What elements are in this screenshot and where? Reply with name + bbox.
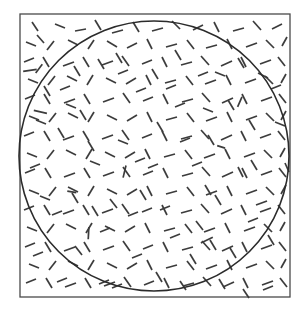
line-segment	[88, 227, 89, 239]
figure-root	[0, 0, 307, 311]
line-segment-texture-canvas	[0, 0, 307, 311]
